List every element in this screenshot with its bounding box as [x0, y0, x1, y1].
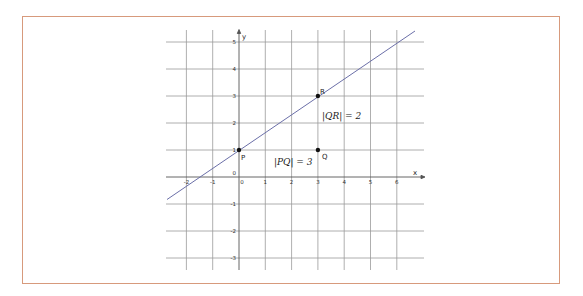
origin-label: 0	[233, 170, 237, 176]
svg-text:3: 3	[316, 179, 320, 185]
svg-text:-1: -1	[231, 201, 236, 207]
point-r-label: R	[320, 88, 325, 96]
svg-text:4: 4	[342, 179, 346, 185]
svg-text:5: 5	[369, 179, 373, 185]
y-axis-label: y	[242, 33, 246, 41]
point-p	[237, 148, 241, 152]
point-q-label: Q	[322, 153, 328, 161]
svg-text:-2: -2	[184, 179, 189, 185]
svg-text:0: 0	[240, 179, 244, 185]
x-tick-labels: -2 -1 0 1 2 3 4 5 6	[184, 179, 399, 185]
svg-text:4: 4	[233, 66, 237, 72]
svg-text:2: 2	[290, 179, 294, 185]
svg-text:2: 2	[233, 120, 237, 126]
point-p-label: P	[241, 154, 245, 162]
svg-text:3: 3	[233, 93, 237, 99]
svg-text:1: 1	[233, 147, 237, 153]
svg-text:-3: -3	[231, 255, 237, 261]
point-q	[316, 148, 320, 152]
pq-annotation: |PQ| = 3	[274, 157, 313, 168]
coordinate-plane: -2 -1 0 1 2 3 4 5 6 5 4 3 2 1 -1 -2 -3 0…	[0, 0, 583, 296]
svg-text:-1: -1	[210, 179, 215, 185]
svg-text:5: 5	[233, 39, 237, 45]
line-series	[167, 31, 415, 200]
x-axis-label: x	[413, 169, 417, 177]
svg-text:-2: -2	[231, 228, 236, 234]
svg-text:1: 1	[264, 179, 268, 185]
qr-annotation: |QR| = 2	[322, 111, 361, 122]
svg-text:6: 6	[395, 179, 399, 185]
horizontal-grid	[166, 42, 424, 258]
